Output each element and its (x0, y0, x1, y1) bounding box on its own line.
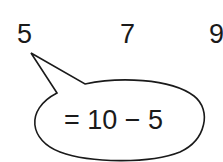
speech-bubble-icon (0, 0, 223, 162)
callout-expression: = 10 − 5 (64, 105, 168, 135)
number-sequence-diagram: 5 7 9 = 10 − 5 (0, 0, 223, 162)
